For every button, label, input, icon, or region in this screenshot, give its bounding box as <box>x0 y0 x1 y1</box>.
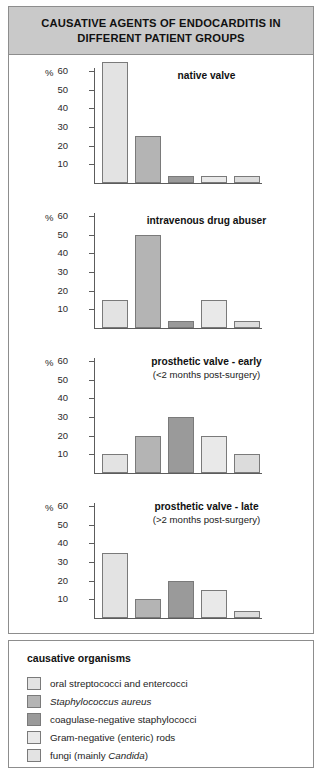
y-axis-tick-label: 10 <box>38 449 68 458</box>
y-axis-tick <box>89 599 94 600</box>
y-axis-tick-label: 30 <box>38 557 68 566</box>
y-axis-tick <box>89 127 94 128</box>
bar-series <box>95 213 262 328</box>
legend-swatch <box>27 677 41 690</box>
bar <box>135 436 161 473</box>
figure-title-line-2: DIFFERENT PATIENT GROUPS <box>77 32 244 44</box>
y-axis-tick <box>89 108 94 109</box>
y-axis-tick <box>89 543 94 544</box>
y-axis-tick <box>89 506 94 507</box>
y-axis-tick-label: 40 <box>38 103 68 112</box>
y-axis-tick <box>89 146 94 147</box>
x-axis-line <box>94 183 262 184</box>
legend-item-label: oral streptococci and entercocci <box>50 678 188 689</box>
bar <box>201 300 227 328</box>
bar <box>201 176 227 183</box>
y-axis-tick <box>89 417 94 418</box>
y-axis-tick-label: 40 <box>38 393 68 402</box>
y-axis-tick <box>89 71 94 72</box>
y-axis-tick-label: 20 <box>38 141 68 150</box>
y-axis-tick-label: 50 <box>38 375 68 384</box>
bar-series <box>95 68 262 183</box>
y-axis-tick <box>89 216 94 217</box>
y-axis-tick-label: 20 <box>38 431 68 440</box>
legend-item: oral streptococci and entercocci <box>27 675 188 691</box>
bar <box>234 611 260 618</box>
x-axis-line <box>94 473 262 474</box>
legend-swatch <box>27 749 41 762</box>
chart-prosthetic-valve-early: %605040302010prosthetic valve - early(<2… <box>9 345 313 490</box>
bar <box>234 176 260 183</box>
bar <box>168 321 194 328</box>
y-axis-tick <box>89 309 94 310</box>
x-axis-line <box>94 328 262 329</box>
page-title: CAUSATIVE AGENTS OF ENDOCARDITIS IN DIFF… <box>41 16 281 46</box>
legend-item: Staphylococcus aureus <box>27 693 151 709</box>
y-axis-tick <box>89 454 94 455</box>
y-axis-tick <box>89 90 94 91</box>
legend-swatch <box>27 731 41 744</box>
legend-item-label: Staphylococcus aureus <box>50 696 151 707</box>
chart-intravenous-drug-abuser: %605040302010intravenous drug abuser <box>9 200 313 345</box>
y-axis-tick <box>89 235 94 236</box>
y-axis-tick-label: 30 <box>38 122 68 131</box>
y-axis-tick <box>89 361 94 362</box>
y-axis-tick <box>89 253 94 254</box>
y-axis-tick <box>89 291 94 292</box>
legend-item-label: Gram-negative (enteric) rods <box>50 732 175 743</box>
y-axis-tick <box>89 272 94 273</box>
bar <box>168 581 194 618</box>
bar <box>135 136 161 183</box>
y-axis-tick-label: 30 <box>38 267 68 276</box>
bar <box>168 176 194 183</box>
charts-panel: CAUSATIVE AGENTS OF ENDOCARDITIS IN DIFF… <box>8 6 314 634</box>
legend-item-label: coagulase-negative staphylococci <box>50 714 197 725</box>
y-axis-tick <box>89 164 94 165</box>
y-axis-tick-label: 60 <box>38 356 68 365</box>
y-axis-tick <box>89 380 94 381</box>
y-axis-tick-label: 50 <box>38 520 68 529</box>
figure-page: CAUSATIVE AGENTS OF ENDOCARDITIS IN DIFF… <box>0 0 322 774</box>
y-axis-tick <box>89 562 94 563</box>
x-axis-line <box>94 618 262 619</box>
y-axis-tick-label: 20 <box>38 286 68 295</box>
bar <box>201 436 227 473</box>
legend-swatch <box>27 713 41 726</box>
legend-item-label: fungi (mainly Candida) <box>50 750 148 761</box>
bar <box>234 454 260 473</box>
bar <box>234 321 260 328</box>
legend-heading: causative organisms <box>27 652 131 664</box>
y-axis-tick <box>89 436 94 437</box>
bar <box>168 417 194 473</box>
bar <box>201 590 227 618</box>
legend-panel: causative organisms oral streptococci an… <box>8 640 314 768</box>
legend-item: coagulase-negative staphylococci <box>27 711 197 727</box>
bar <box>135 599 161 618</box>
bar <box>102 454 128 473</box>
legend-item: fungi (mainly Candida) <box>27 747 148 763</box>
y-axis-tick-label: 60 <box>38 211 68 220</box>
bar <box>135 235 161 328</box>
y-axis-tick-label: 20 <box>38 576 68 585</box>
bar-series <box>95 358 262 473</box>
y-axis-tick-label: 40 <box>38 538 68 547</box>
y-axis-tick <box>89 398 94 399</box>
y-axis-tick <box>89 525 94 526</box>
figure-title-line-1: CAUSATIVE AGENTS OF ENDOCARDITIS IN <box>41 17 281 29</box>
bar <box>102 300 128 328</box>
y-axis-tick-label: 10 <box>38 304 68 313</box>
y-axis-tick-label: 60 <box>38 66 68 75</box>
legend-swatch <box>27 695 41 708</box>
y-axis-tick-label: 10 <box>38 159 68 168</box>
y-axis-tick-label: 50 <box>38 230 68 239</box>
y-axis-tick-label: 40 <box>38 248 68 257</box>
figure-title-banner: CAUSATIVE AGENTS OF ENDOCARDITIS IN DIFF… <box>9 7 313 55</box>
y-axis-tick-label: 50 <box>38 85 68 94</box>
y-axis-tick-label: 60 <box>38 501 68 510</box>
legend-item: Gram-negative (enteric) rods <box>27 729 175 745</box>
chart-native-valve: %605040302010native valve <box>9 55 313 200</box>
bar <box>102 62 128 183</box>
bar <box>102 553 128 618</box>
y-axis-tick-label: 10 <box>38 594 68 603</box>
bar-series <box>95 503 262 618</box>
